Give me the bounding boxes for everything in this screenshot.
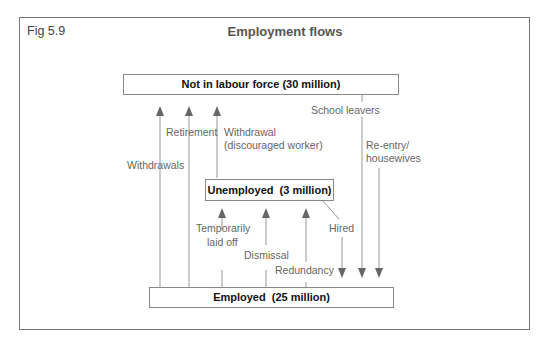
label-school-leavers: School leavers [311,104,380,117]
label-withdrawal-2: (discouraged worker) [224,139,323,152]
label-redundancy: Redundancy [275,264,334,277]
label-reentry-1: Re-entry/ [366,139,409,152]
label-hired: Hired [329,222,354,235]
label-retirement: Retirement [166,126,217,139]
label-reentry-2: housewives [366,152,421,165]
label-withdrawal-1: Withdrawal [224,126,276,139]
label-temporarily-2: laid off [207,236,238,249]
label-withdrawals: Withdrawals [127,159,184,172]
label-dismissal: Dismissal [244,249,289,262]
node-not-in-labour-force: Not in labour force (30 million) [123,74,399,95]
label-temporarily-1: Temporarily [196,222,250,235]
node-unemployed: Unemployed (3 million) [205,179,334,201]
node-employed: Employed (25 million) [149,287,394,308]
